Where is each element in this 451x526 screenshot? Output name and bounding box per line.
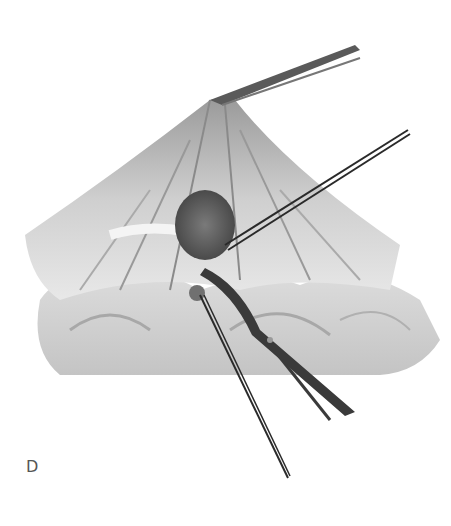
panel-label: D <box>26 457 38 476</box>
tissue-opening <box>175 190 235 260</box>
surgical-illustration: D <box>0 0 451 526</box>
forceps-instrument <box>210 45 360 105</box>
illustration-drawing <box>0 0 451 526</box>
